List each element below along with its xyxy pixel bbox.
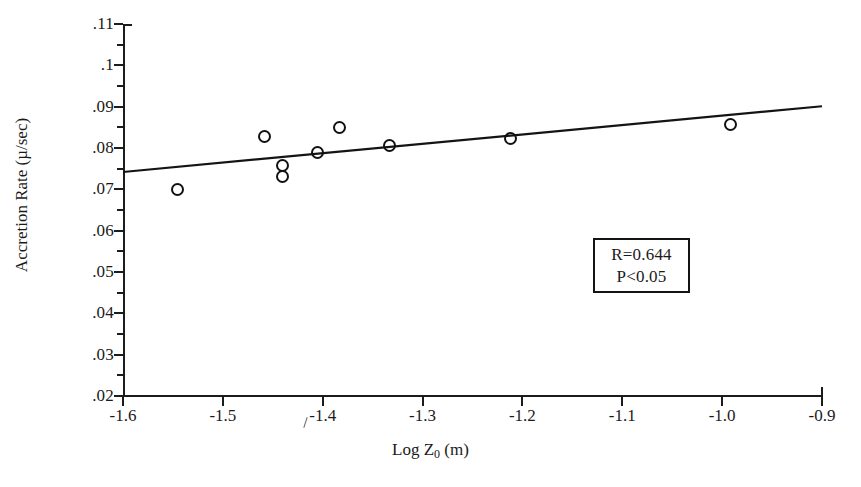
pvalue-label: P<0.05 — [617, 266, 667, 288]
stats-annotation-box: R=0.644 P<0.05 — [593, 238, 690, 293]
correlation-value: R=0.644 — [611, 244, 672, 266]
data-point — [504, 132, 517, 145]
data-point — [724, 118, 737, 131]
trend-line — [0, 0, 861, 487]
scatter-chart: .11.1.09.08.07.06.05.04.03.02 -1.6-1.5-1… — [0, 0, 861, 487]
